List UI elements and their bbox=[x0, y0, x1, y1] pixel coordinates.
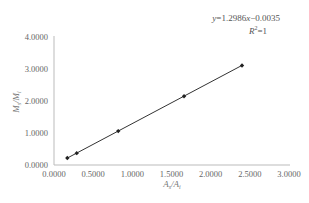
x-tick-label: 0.0000 bbox=[42, 169, 65, 179]
x-tick-labels: 0.00000.50001.00001.50002.00002.50003.00… bbox=[42, 169, 300, 179]
x-tick-label: 2.0000 bbox=[199, 169, 222, 179]
data-point-marker bbox=[116, 129, 120, 133]
chart-canvas: 0.00001.00002.00003.00004.0000 0.00000.5… bbox=[0, 0, 309, 203]
y-tick-label: 1.0000 bbox=[25, 128, 48, 138]
axes bbox=[54, 36, 290, 165]
data-point-marker bbox=[182, 94, 186, 98]
data-point-marker bbox=[65, 156, 69, 160]
y-tick-labels: 0.00001.00002.00003.00004.0000 bbox=[25, 32, 48, 170]
equation-label: y=1.2986x−0.0035 bbox=[211, 13, 280, 23]
x-tick-label: 1.0000 bbox=[121, 169, 144, 179]
x-tick-label: 2.5000 bbox=[238, 169, 261, 179]
x-tick-label: 3.0000 bbox=[277, 169, 300, 179]
trendline-path bbox=[67, 65, 242, 158]
y-tick-label: 2.0000 bbox=[25, 96, 48, 106]
x-tick-label: 0.5000 bbox=[81, 169, 104, 179]
data-point-marker bbox=[240, 63, 244, 67]
x-axis-title: As/Ai bbox=[162, 179, 181, 190]
trendline bbox=[67, 65, 242, 158]
y-tick-label: 3.0000 bbox=[25, 64, 48, 74]
y-axis-title: Ms/Mi bbox=[11, 91, 22, 114]
y-tick-label: 4.0000 bbox=[25, 32, 48, 42]
x-tick-label: 1.5000 bbox=[160, 169, 183, 179]
data-point-marker bbox=[75, 151, 79, 155]
r-squared-label: R2=1 bbox=[248, 25, 267, 36]
